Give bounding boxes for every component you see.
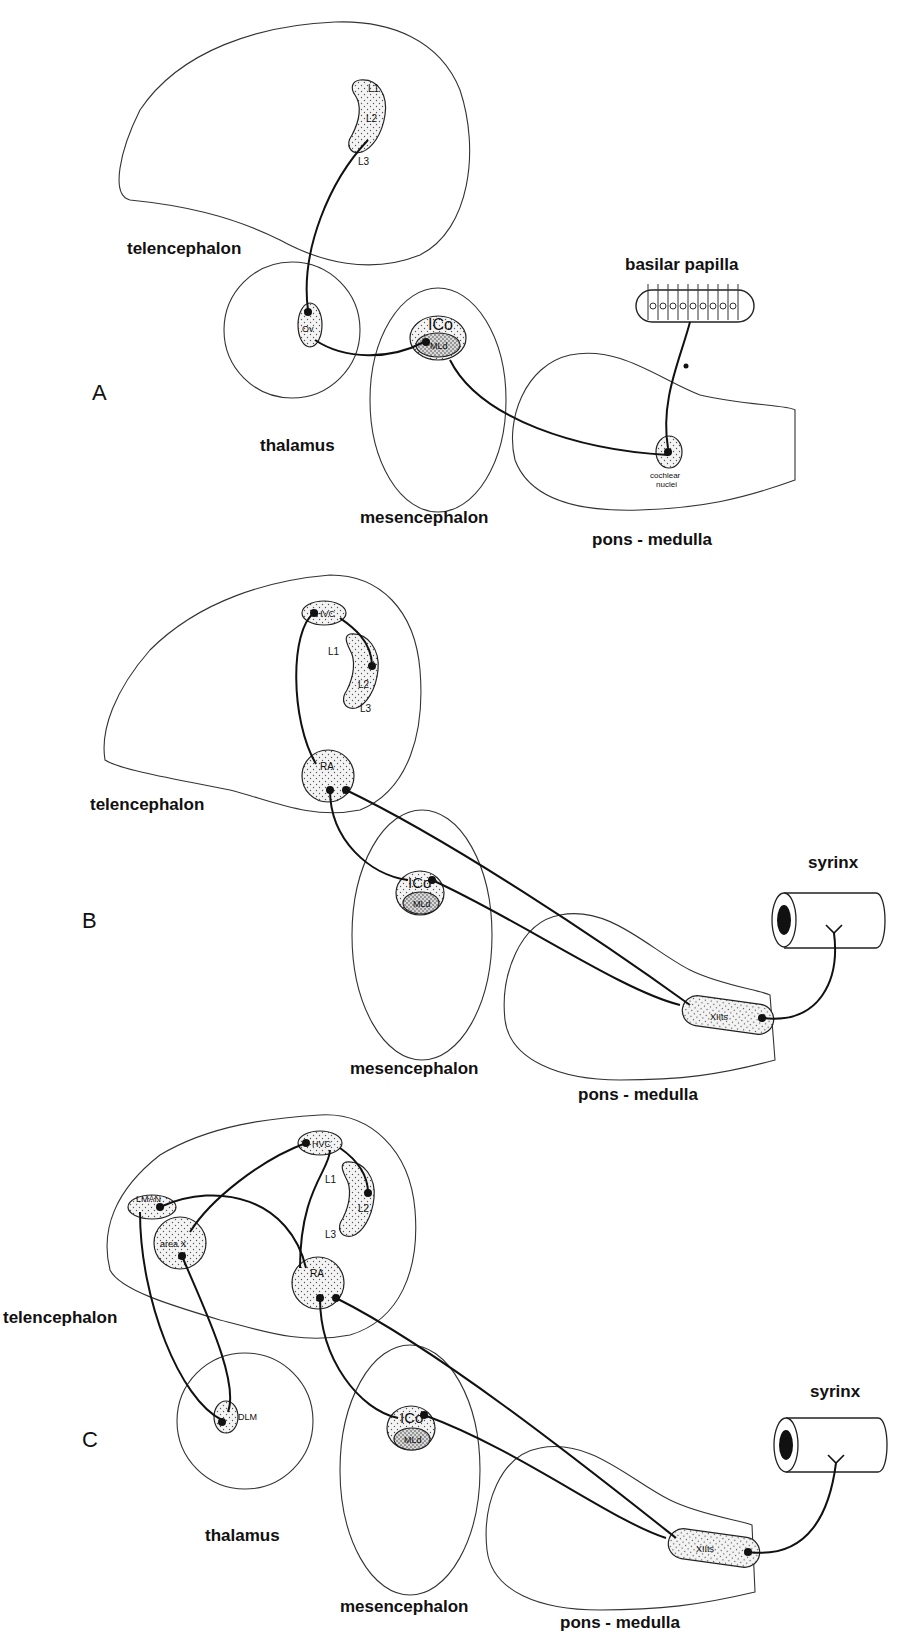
panel-a: L1 L2 L3 telencephalon Ov thalamus ICo M… <box>92 22 795 549</box>
mesencephalon-outline <box>352 810 492 1060</box>
label-pons-medulla: pons - medulla <box>592 530 713 549</box>
pathway-hvc-ra <box>300 1150 330 1268</box>
label-l1: L1 <box>368 83 380 94</box>
label-telencephalon: telencephalon <box>90 795 204 814</box>
label-pons-medulla: pons - medulla <box>560 1613 681 1632</box>
pathway-ico-xiits <box>432 880 680 1005</box>
label-pons-medulla: pons - medulla <box>578 1085 699 1104</box>
label-l3: L3 <box>325 1229 337 1240</box>
panel-label-a: A <box>92 380 107 405</box>
l2-cell <box>368 662 376 670</box>
areax-cell <box>178 1252 186 1260</box>
pathway-ra-ico <box>330 790 408 880</box>
ra-cell <box>342 786 350 794</box>
label-xiits: XIIts <box>710 1012 729 1022</box>
xiits-cell <box>758 1014 766 1022</box>
label-dlm: DLM <box>238 1412 257 1422</box>
label-area-x: area X <box>160 1239 187 1249</box>
pathway-hvc-ra <box>296 613 316 764</box>
label-mld: MLd <box>404 1435 422 1445</box>
ra-nucleus <box>302 750 354 802</box>
label-l3: L3 <box>358 156 370 167</box>
label-xiits: XIIts <box>696 1544 715 1554</box>
ov-cell <box>304 308 312 316</box>
ra-cell <box>332 1294 340 1302</box>
pathway-mld-ov <box>315 340 424 355</box>
label-cochlear: cochlear <box>650 471 681 480</box>
label-thalamus: thalamus <box>260 436 335 455</box>
pathway-ra-xiits <box>336 1298 676 1538</box>
label-ico: ICo <box>428 316 453 333</box>
lman-cell <box>156 1203 164 1211</box>
telencephalon-outline <box>119 22 470 265</box>
label-basilar-papilla: basilar papilla <box>625 255 739 274</box>
ico-cell <box>420 1411 428 1419</box>
telencephalon-outline <box>104 575 421 813</box>
panel-c: HVC L1 L2 L3 LMAN area X RA telencephalo… <box>3 1115 887 1632</box>
field-l-nucleus <box>340 1162 375 1236</box>
label-telencephalon: telencephalon <box>3 1308 117 1327</box>
label-l1: L1 <box>325 1174 337 1185</box>
brain-pathway-diagram: L1 L2 L3 telencephalon Ov thalamus ICo M… <box>0 0 897 1648</box>
label-telencephalon: telencephalon <box>127 239 241 258</box>
label-ico: ICo <box>408 874 431 891</box>
label-ra: RA <box>310 1268 324 1279</box>
mesencephalon-outline <box>340 1345 480 1595</box>
field-l-nucleus <box>344 634 379 708</box>
syrinx-terminal <box>828 1455 844 1463</box>
pathway-xiits-syrinx <box>748 1463 836 1553</box>
label-l2: L2 <box>358 679 370 690</box>
ra-cell <box>326 786 334 794</box>
panel-label-c: C <box>82 1427 98 1452</box>
hvc-cell <box>310 609 318 617</box>
pathway-ico-xiits <box>424 1415 666 1538</box>
pathway-ra-ico <box>320 1298 398 1418</box>
label-syrinx: syrinx <box>808 853 859 872</box>
label-mesencephalon: mesencephalon <box>360 508 489 527</box>
label-l2: L2 <box>358 1203 370 1214</box>
label-thalamus: thalamus <box>205 1526 280 1545</box>
label-hvc: HVC <box>312 1139 332 1149</box>
pons-medulla-outline <box>504 914 775 1080</box>
panel-b: HVC L1 L2 L3 RA telencephalon ICo MLd me… <box>82 575 885 1104</box>
label-ra: RA <box>320 761 334 772</box>
syrinx <box>774 1418 887 1472</box>
syrinx-terminal <box>826 925 842 933</box>
mld-cell <box>422 338 430 346</box>
label-nuclei: nuclei <box>656 480 677 489</box>
panel-label-b: B <box>82 908 97 933</box>
label-l1: L1 <box>328 646 340 657</box>
label-mld: MLd <box>430 341 448 351</box>
ra-cell <box>316 1294 324 1302</box>
label-ico: ICo <box>400 1409 423 1426</box>
ico-cell <box>428 876 436 884</box>
ganglion-dot <box>684 364 689 369</box>
pathway-xiits-syrinx <box>762 933 835 1019</box>
dlm-cell <box>218 1418 226 1426</box>
label-l2: L2 <box>366 113 378 124</box>
pathway-hvc-areax <box>190 1143 306 1232</box>
label-mld: MLd <box>413 899 431 909</box>
pons-medulla-outline <box>486 1446 755 1610</box>
xiits-cell <box>744 1548 752 1556</box>
l2-cell <box>364 1189 372 1197</box>
syrinx <box>772 893 885 948</box>
label-hvc: HVC <box>316 609 336 619</box>
thalamus-outline <box>224 262 360 398</box>
label-syrinx: syrinx <box>810 1382 861 1401</box>
label-ov: Ov <box>302 324 314 334</box>
pathway-cochlear-mld <box>450 360 668 455</box>
cochlear-cell <box>664 448 672 456</box>
label-mesencephalon: mesencephalon <box>350 1059 479 1078</box>
label-lman: LMAN <box>136 1194 161 1204</box>
hvc-cell <box>302 1139 310 1147</box>
pons-medulla-outline <box>512 353 795 510</box>
label-mesencephalon: mesencephalon <box>340 1597 469 1616</box>
label-l3: L3 <box>360 703 372 714</box>
